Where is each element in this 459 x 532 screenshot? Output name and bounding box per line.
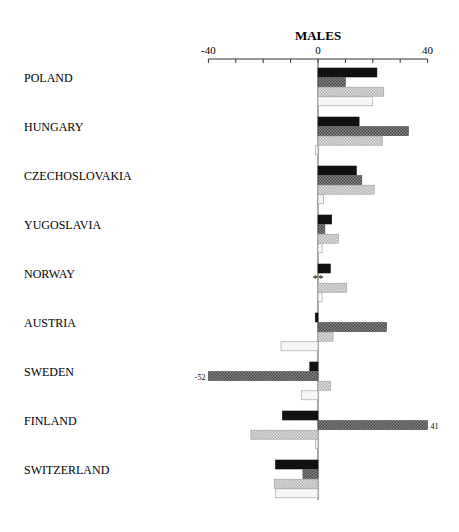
bar	[318, 97, 373, 106]
bar	[315, 440, 318, 449]
x-tick-label: -40	[201, 44, 216, 56]
x-tick-label: 40	[422, 44, 434, 56]
category-label: SWEDEN	[24, 365, 74, 379]
bar	[318, 225, 325, 234]
bar	[318, 68, 377, 77]
bar	[318, 215, 332, 224]
category-label: YUGOSLAVIA	[24, 218, 101, 232]
chart-title: MALES	[295, 28, 341, 43]
bar	[302, 391, 318, 400]
bar	[318, 323, 387, 332]
category-label: NORWAY	[24, 267, 75, 281]
bar-annotation: 41	[431, 422, 439, 431]
bar	[318, 127, 408, 136]
bar	[318, 234, 339, 243]
x-tick-label: 0	[315, 44, 321, 56]
bar	[318, 87, 384, 96]
category-label: HUNGARY	[24, 120, 84, 134]
annotations: **-5241	[195, 272, 439, 431]
bar	[318, 381, 330, 390]
bar	[282, 411, 318, 420]
bar	[315, 313, 318, 322]
bar-annotation: **	[313, 272, 324, 284]
bar	[251, 430, 318, 439]
bar	[281, 342, 318, 351]
bar	[318, 293, 322, 302]
bar	[318, 117, 359, 126]
category-label: SWITZERLAND	[24, 463, 110, 477]
bar	[274, 479, 318, 488]
bar	[318, 185, 374, 194]
bar	[276, 489, 318, 498]
category-label: CZECHOSLOVAKIA	[24, 169, 132, 183]
bar	[318, 176, 362, 185]
bar	[318, 166, 356, 175]
bar-annotation: -52	[195, 373, 206, 382]
bar	[276, 460, 318, 469]
bar	[318, 136, 382, 145]
bar	[310, 362, 318, 371]
category-labels: POLANDHUNGARYCZECHOSLOVAKIAYUGOSLAVIANOR…	[24, 71, 132, 477]
category-label: POLAND	[24, 71, 73, 85]
bar	[318, 78, 345, 87]
bar	[318, 283, 347, 292]
bar	[318, 332, 333, 341]
bar	[318, 244, 322, 253]
males-bar-chart: MALES -40040 POLANDHUNGARYCZECHOSLOVAKIA…	[0, 0, 459, 532]
bar	[303, 470, 318, 479]
bar	[208, 372, 318, 381]
bar	[318, 421, 428, 430]
category-label: FINLAND	[24, 414, 77, 428]
bar	[315, 146, 318, 155]
bar	[318, 195, 323, 204]
category-label: AUSTRIA	[24, 316, 76, 330]
